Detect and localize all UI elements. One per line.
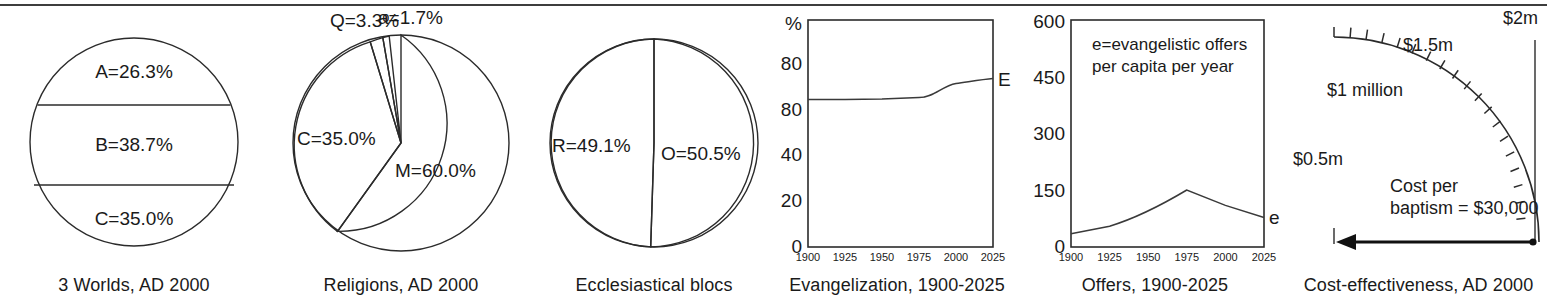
slice-a	[383, 36, 401, 143]
panel-evangelization: % 0 20 40 80 80 1900 1925 1950 1975 2000…	[774, 0, 1020, 301]
panel-caption-three-worlds: 3 Worlds, AD 2000	[0, 275, 268, 296]
y-tick-150: 150	[1033, 180, 1065, 201]
slice-label-a: A=26.3%	[95, 61, 173, 82]
slice-label-c: C=35.0%	[95, 208, 174, 229]
three-worlds-chart: A=26.3% B=38.7% C=35.0%	[0, 0, 268, 270]
y-tick-450: 450	[1033, 67, 1065, 88]
note-line-2: baptism = $30,000	[1390, 198, 1539, 218]
panel-offers: 0 150 300 450 600 1900 1925 1950 1975 20…	[1020, 0, 1290, 301]
offers-line-chart: 0 150 300 450 600 1900 1925 1950 1975 20…	[1020, 0, 1290, 270]
slice-label-b: B=38.7%	[95, 134, 173, 155]
y-tick-40: 40	[781, 144, 802, 165]
plot-frame	[1071, 20, 1264, 247]
series-label-e: E	[998, 69, 1011, 90]
x-tick-1975: 1975	[1175, 251, 1199, 263]
plot-frame	[808, 20, 993, 247]
cost-effectiveness-dial: $0.5m $1 million $1.5m $2m Cost per bapt…	[1290, 0, 1547, 270]
note-line-1: Cost per	[1390, 176, 1458, 196]
scale-label-1-million: $1 million	[1327, 80, 1403, 100]
evangelization-line-chart: % 0 20 40 80 80 1900 1925 1950 1975 2000…	[774, 0, 1020, 270]
x-tick-2025: 2025	[1252, 251, 1276, 263]
religions-pie-chart: Q=3.3% a=1.7% C=35.0% M=60.0%	[268, 0, 534, 270]
x-tick-2000: 2000	[944, 251, 968, 263]
x-tick-1900: 1900	[1059, 251, 1083, 263]
slice-label-a: a=1.7%	[378, 7, 443, 28]
panel-ecclesiastical-blocs: R=49.1% O=50.5% Ecclesiastical blocs	[534, 0, 774, 301]
y-tick-20: 20	[781, 190, 802, 211]
series-line-e	[1071, 190, 1264, 234]
pointer-pivot-dot	[1529, 238, 1536, 245]
series-label-e: e	[1269, 207, 1280, 228]
slice-label-c: C=35.0%	[297, 128, 376, 149]
y-tick-80: 80	[781, 53, 802, 74]
note-line-1: e=evangelistic offers	[1092, 35, 1247, 54]
x-tick-1975: 1975	[907, 251, 931, 263]
slice-label-m: M=60.0%	[395, 160, 476, 181]
scale-label-1-5m: $1.5m	[1403, 35, 1453, 55]
panel-three-worlds: A=26.3% B=38.7% C=35.0% 3 Worlds, AD 200…	[0, 0, 268, 301]
x-tick-1950: 1950	[870, 251, 894, 263]
slice-label-o: O=50.5%	[661, 143, 741, 164]
x-tick-1925: 1925	[833, 251, 857, 263]
x-tick-1925: 1925	[1097, 251, 1121, 263]
y-tick-60: 80	[781, 99, 802, 120]
panel-caption-evangelization: Evangelization, 1900-2025	[774, 275, 1020, 296]
panel-cost-effectiveness: $0.5m $1 million $1.5m $2m Cost per bapt…	[1290, 0, 1547, 301]
scale-label-0-5m: $0.5m	[1293, 149, 1343, 169]
pointer-arrowhead	[1336, 234, 1356, 250]
y-tick-300: 300	[1033, 123, 1065, 144]
panel-caption-offers: Offers, 1900-2025	[1020, 275, 1290, 296]
y-tick-600: 600	[1033, 11, 1065, 32]
ecclesiastical-blocs-pie-chart: R=49.1% O=50.5%	[534, 0, 774, 270]
panel-religions: Q=3.3% a=1.7% C=35.0% M=60.0% Religions,…	[268, 0, 534, 301]
x-tick-2025: 2025	[981, 251, 1005, 263]
x-tick-2000: 2000	[1213, 251, 1237, 263]
x-tick-1900: 1900	[796, 251, 820, 263]
panel-caption-religions: Religions, AD 2000	[268, 275, 534, 296]
panel-caption-cost-effectiveness: Cost-effectiveness, AD 2000	[1290, 275, 1547, 296]
panel-caption-ecclesiastical-blocs: Ecclesiastical blocs	[534, 275, 774, 296]
series-line-e	[808, 78, 993, 99]
scale-label-2m: $2m	[1503, 8, 1538, 28]
slice-label-r: R=49.1%	[552, 135, 631, 156]
note-line-2: per capita per year	[1092, 57, 1234, 76]
x-tick-1950: 1950	[1136, 251, 1160, 263]
y-axis-title: %	[785, 13, 802, 34]
